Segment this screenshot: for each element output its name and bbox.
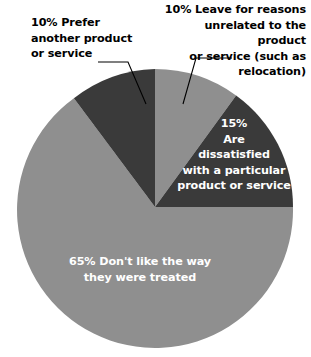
slice-label-dont-like-treatment: 65% Don't like the way they were treated — [45, 254, 235, 285]
slice-label-prefer-another: 10% Prefer another product or service — [31, 15, 147, 62]
pie-chart: 10% Prefer another product or service 10… — [0, 0, 311, 357]
slice-label-dissatisfied: 15% Are dissatisfied with a particular p… — [176, 116, 292, 194]
slice-label-unrelated-reasons: 10% Leave for reasons unrelated to the p… — [154, 2, 306, 80]
